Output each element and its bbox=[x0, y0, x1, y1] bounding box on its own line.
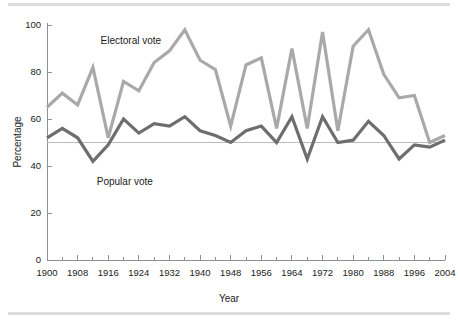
x-tick-label: 1956 bbox=[251, 267, 272, 278]
x-tick-label: 1996 bbox=[404, 267, 425, 278]
x-tick-label: 1900 bbox=[36, 267, 57, 278]
x-tick-label: 1980 bbox=[343, 267, 364, 278]
x-tick-label: 1964 bbox=[281, 267, 302, 278]
x-tick-label: 1932 bbox=[159, 267, 180, 278]
popular-vote-series-label: Popular vote bbox=[97, 176, 154, 187]
x-tick-label: 1940 bbox=[190, 267, 211, 278]
y-tick-label: 0 bbox=[36, 254, 41, 265]
data-series-group bbox=[47, 30, 445, 162]
x-axis-ticks bbox=[47, 255, 445, 260]
y-tick-label: 100 bbox=[25, 19, 41, 30]
chart-figure: 020406080100 190019081916192419321940194… bbox=[0, 0, 458, 323]
y-tick-label: 60 bbox=[30, 113, 41, 124]
x-tick-label: 1916 bbox=[98, 267, 119, 278]
x-tick-label: 1908 bbox=[67, 267, 88, 278]
y-axis-tick-labels: 020406080100 bbox=[25, 19, 41, 265]
plot-area: 020406080100 190019081916192419321940194… bbox=[0, 0, 458, 323]
x-tick-label: 1972 bbox=[312, 267, 333, 278]
y-tick-label: 80 bbox=[30, 66, 41, 77]
series-line-electoral-vote bbox=[47, 30, 445, 143]
x-tick-label: 1924 bbox=[128, 267, 149, 278]
x-tick-label: 1948 bbox=[220, 267, 241, 278]
y-axis-title: Percentage bbox=[12, 116, 23, 168]
y-tick-label: 40 bbox=[30, 160, 41, 171]
x-axis-title: Year bbox=[219, 293, 240, 304]
axis-lines bbox=[47, 23, 445, 260]
x-tick-label: 2004 bbox=[434, 267, 455, 278]
x-axis-tick-labels: 1900190819161924193219401948195619641972… bbox=[36, 267, 455, 278]
x-tick-label: 1988 bbox=[373, 267, 394, 278]
y-tick-label: 20 bbox=[30, 207, 41, 218]
line-chart-svg: 020406080100 190019081916192419321940194… bbox=[0, 0, 458, 323]
electoral-vote-series-label: Electoral vote bbox=[101, 35, 162, 46]
